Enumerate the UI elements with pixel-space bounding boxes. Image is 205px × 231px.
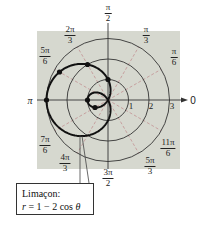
radius-label-1: 1 — [129, 101, 134, 111]
callout-equation: r = 1 − 2 cos θ — [22, 200, 93, 213]
radius-label-2: 2 — [149, 101, 154, 111]
angle-label-0: 0 — [190, 95, 196, 106]
angle-label-11pi-over-6: 11π6 — [160, 138, 175, 158]
curve-callout-box: Limaçon: r = 1 − 2 cos θ — [16, 183, 94, 215]
angle-label-5pi-over-3: 5π3 — [144, 156, 155, 176]
angle-label-7pi-over-6: 7π6 — [39, 135, 50, 155]
angle-label-pi-over-3: π3 — [143, 25, 150, 45]
angle-label-pi-over-6: π6 — [171, 47, 178, 67]
angle-label-2pi-over-3: 2π3 — [64, 25, 75, 45]
angle-label-pi: π — [27, 95, 32, 106]
callout-title: Limaçon: — [22, 187, 93, 200]
angle-label-5pi-over-6: 5π6 — [39, 46, 50, 66]
angle-label-4pi-over-3: 4π3 — [59, 153, 70, 173]
radius-label-3: 3 — [170, 101, 175, 111]
angle-label-pi-over-2: π2 — [105, 3, 112, 23]
angle-label-3pi-over-2: 3π2 — [102, 168, 113, 188]
